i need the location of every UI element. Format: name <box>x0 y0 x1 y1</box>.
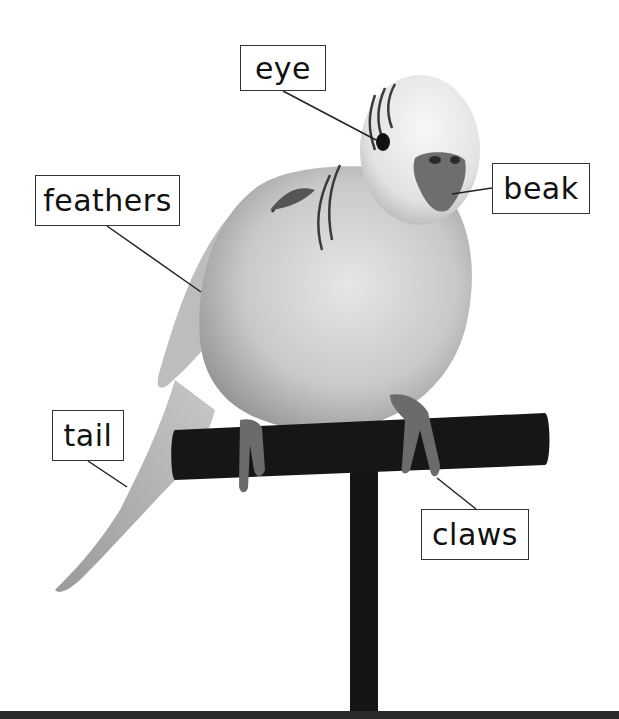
perch-bar <box>171 413 549 480</box>
parrot-illustration <box>0 0 619 719</box>
eye-shape <box>376 133 390 151</box>
head-shape <box>360 75 480 225</box>
perch-pole <box>350 470 378 715</box>
label-feathers: feathers <box>35 175 180 226</box>
label-eye-text: eye <box>255 51 311 86</box>
label-beak-text: beak <box>503 171 578 206</box>
eye-leader <box>283 91 376 140</box>
feathers-leader <box>107 226 201 292</box>
label-beak: beak <box>492 163 590 214</box>
parrot-diagram: eye feathers beak tail claws <box>0 0 619 719</box>
label-feathers-text: feathers <box>43 183 172 218</box>
label-claws: claws <box>421 509 529 560</box>
label-claws-text: claws <box>432 517 518 552</box>
label-eye: eye <box>240 45 326 91</box>
tail-leader <box>88 461 127 487</box>
label-tail: tail <box>52 410 124 461</box>
bottom-border <box>0 711 619 719</box>
label-tail-text: tail <box>64 418 113 453</box>
claws-leader <box>437 478 476 509</box>
